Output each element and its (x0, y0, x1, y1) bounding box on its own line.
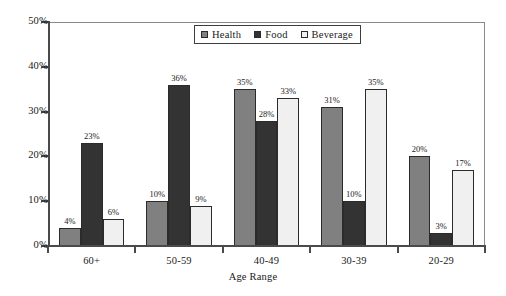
x-tick-label: 40-49 (223, 255, 310, 267)
bar-value-label: 35% (359, 78, 393, 87)
x-tick-mark (397, 245, 399, 253)
bar-value-label: 36% (162, 74, 196, 83)
bar-beverage-20-29 (452, 170, 474, 246)
x-axis-title: Age Range (0, 271, 506, 282)
x-tick-mark (134, 245, 136, 253)
legend-swatch-icon (201, 31, 208, 38)
bar-value-label: 17% (446, 159, 480, 168)
chart-legend: HealthFoodBeverage (194, 25, 361, 44)
bar-value-label: 20% (403, 145, 437, 154)
x-tick-mark (222, 245, 224, 253)
bar-health-60plus (59, 228, 81, 246)
bar-health-50-59 (146, 201, 168, 246)
bar-beverage-40-49 (277, 98, 299, 246)
bars-layer: 4%23%6%10%36%9%35%28%33%31%10%35%20%3%17… (0, 0, 506, 296)
legend-label: Food (265, 29, 287, 40)
x-tick-label: 30-39 (310, 255, 397, 267)
bar-value-label: 23% (75, 132, 109, 141)
x-tick-label: 20-29 (398, 255, 485, 267)
bar-health-20-29 (409, 156, 431, 246)
bar-food-40-49 (256, 121, 278, 246)
legend-label: Beverage (312, 29, 353, 40)
bar-food-60plus (81, 143, 103, 246)
bar-value-label: 35% (228, 78, 262, 87)
x-tick-mark (309, 245, 311, 253)
x-axis-line (48, 245, 486, 247)
bar-food-30-39 (343, 201, 365, 246)
legend-entry-beverage[interactable]: Beverage (301, 29, 353, 40)
legend-label: Health (212, 29, 241, 40)
legend-swatch-icon (254, 31, 261, 38)
bar-value-label: 31% (315, 96, 349, 105)
x-tick-label: 60+ (48, 255, 135, 267)
bar-beverage-60plus (103, 219, 125, 246)
bar-value-label: 9% (184, 195, 218, 204)
bar-food-50-59 (168, 85, 190, 246)
bar-value-label: 6% (97, 208, 131, 217)
x-tick-mark (484, 245, 486, 253)
bar-health-30-39 (321, 107, 343, 246)
bar-beverage-30-39 (365, 89, 387, 246)
legend-swatch-icon (301, 31, 308, 38)
bar-food-20-29 (430, 233, 452, 246)
legend-entry-food[interactable]: Food (254, 29, 287, 40)
x-tick-label: 50-59 (135, 255, 222, 267)
x-tick-mark (47, 245, 49, 253)
legend-entry-health[interactable]: Health (201, 29, 241, 40)
bar-chart: 0%10%20%30%40%50% 4%23%6%10%36%9%35%28%3… (0, 0, 506, 296)
bar-value-label: 33% (271, 87, 305, 96)
bar-beverage-50-59 (190, 206, 212, 246)
